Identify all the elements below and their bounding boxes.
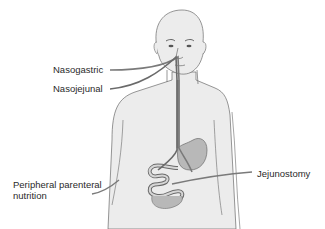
label-peripheral-parenteral-nutrition: Peripheral parenteral nutrition xyxy=(13,179,103,201)
label-nasogastric: Nasogastric xyxy=(53,64,103,75)
left-ear xyxy=(154,42,157,54)
label-nasojejunal: Nasojejunal xyxy=(53,83,103,94)
right-eye xyxy=(187,45,192,48)
left-eye xyxy=(169,45,174,48)
label-jejunostomy: Jejunostomy xyxy=(257,168,310,179)
right-ear xyxy=(203,42,206,54)
feeding-routes-diagram: Nasogastric Nasojejunal Jejunostomy Peri… xyxy=(0,0,325,229)
